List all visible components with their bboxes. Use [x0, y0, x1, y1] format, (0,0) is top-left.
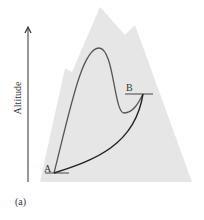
point-a-label: A [44, 163, 52, 174]
point-b-label: B [126, 82, 133, 93]
panel-label: (a) [15, 196, 26, 208]
axis-label: Altitude [12, 81, 23, 114]
diagram-canvas: A B Altitude (a) [0, 0, 204, 220]
